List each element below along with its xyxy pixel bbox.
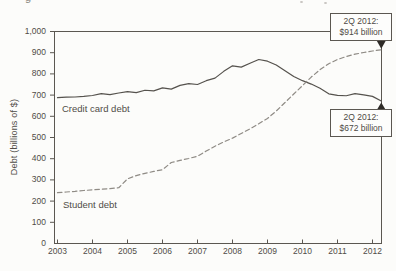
annotation-line1: 2Q 2012:: [335, 112, 387, 123]
annotation-credit-card-672: 2Q 2012: $672 billion: [330, 109, 392, 137]
y-tick-label: 200: [0, 196, 46, 206]
y-tick-label: 1,000: [0, 26, 46, 36]
x-tick-label: 2005: [113, 246, 143, 256]
x-tick-label: 2003: [43, 246, 73, 256]
marker-triangle-down: [377, 41, 386, 49]
x-tick-label: 2008: [218, 246, 248, 256]
y-tick-label: 0: [0, 238, 46, 248]
y-tick-label: 800: [0, 68, 46, 78]
x-tick-label: 2004: [78, 246, 108, 256]
x-tick-label: 2012: [358, 246, 388, 256]
y-tick-label: 300: [0, 174, 46, 184]
x-tick-label: 2010: [288, 246, 318, 256]
y-tick-label: 600: [0, 111, 46, 121]
y-tick-label: 400: [0, 153, 46, 163]
credit-card-debt-line: [58, 59, 382, 101]
y-axis-title: Debt (billions of $): [9, 99, 19, 176]
x-tick-label: 2009: [253, 246, 283, 256]
y-tick-label: 900: [0, 47, 46, 57]
x-tick-label: 2011: [323, 246, 353, 256]
annotation-student-debt-914: 2Q 2012: $914 billion: [330, 13, 392, 41]
annotation-line1: 2Q 2012:: [335, 16, 387, 27]
y-tick-label: 700: [0, 90, 46, 100]
student-debt-series-label: Student debt: [63, 199, 117, 210]
x-tick-label: 2007: [183, 246, 213, 256]
y-tick-label: 100: [0, 217, 46, 227]
credit-card-debt-series-label: Credit card debt: [62, 103, 130, 114]
annotation-line2: $914 billion: [335, 27, 387, 38]
plot-frame: [55, 32, 382, 244]
annotation-line2: $672 billion: [335, 123, 387, 134]
y-tick-label: 500: [0, 132, 46, 142]
x-tick-label: 2006: [148, 246, 178, 256]
figure: g 01002003004005006007008009001,00020032…: [0, 0, 396, 271]
